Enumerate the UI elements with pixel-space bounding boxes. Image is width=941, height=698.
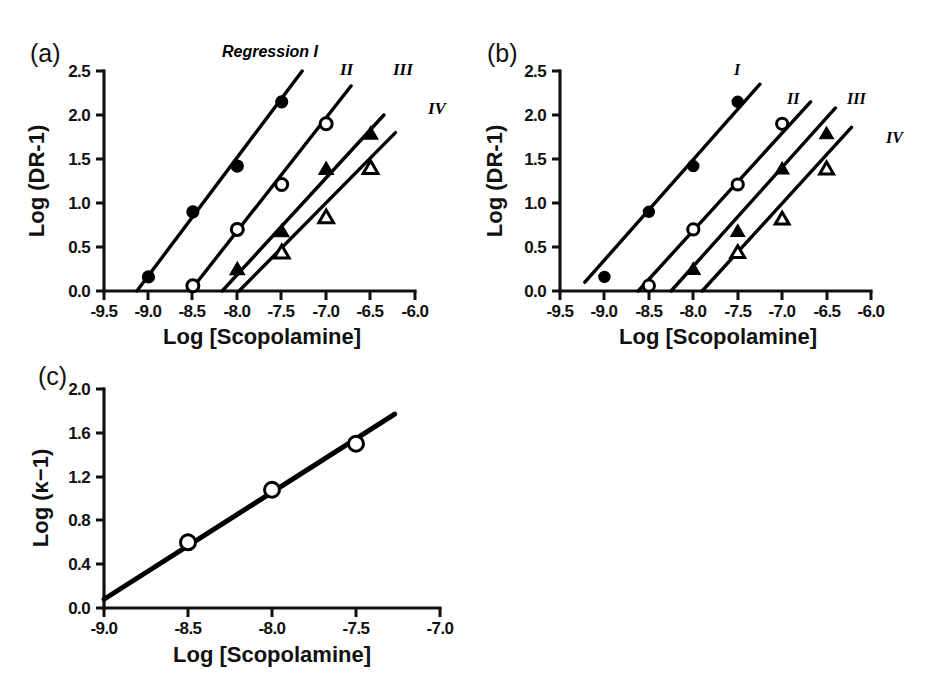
- data-point-filled-triangle: [686, 262, 700, 274]
- svg-text:0.4: 0.4: [68, 555, 91, 574]
- svg-text:-9.0: -9.0: [135, 302, 162, 321]
- data-point-filled-circle: [732, 96, 743, 107]
- panel-a-y-axis-title: Log (DR-1): [24, 125, 49, 237]
- svg-text:0.8: 0.8: [68, 511, 90, 530]
- svg-text:-8.5: -8.5: [179, 302, 206, 321]
- panel-b-y-axis-title: Log (DR-1): [482, 125, 507, 237]
- panel-a: (a) Regression I 0.0 0.5 1.0 1.5 2: [0, 0, 470, 350]
- panel-c: (c) 0.0 0.4 0.8 1.2 1.6 2.0: [0, 340, 470, 698]
- svg-text:2.5: 2.5: [524, 62, 546, 81]
- svg-text:1.5: 1.5: [524, 150, 546, 169]
- regression-line-III: [671, 108, 835, 291]
- regression-line-IV: [239, 133, 395, 291]
- panel-c-y-axis-title: Log (κ−1): [28, 449, 53, 547]
- svg-text:2.0: 2.0: [524, 106, 546, 125]
- data-point-filled-circle: [187, 206, 199, 218]
- svg-text:0.0: 0.0: [68, 282, 90, 301]
- svg-text:1.2: 1.2: [68, 468, 90, 487]
- svg-text:-6.0: -6.0: [402, 302, 429, 321]
- panel-b-series-label-IV: IV: [885, 129, 904, 146]
- panel-b-x-tick-labels: -9.5 -9.0 -8.5 -8.0 -7.5 -7.0 -6.5 -6.0: [547, 302, 885, 321]
- data-point-filled-triangle: [731, 225, 745, 237]
- data-point-open-circle: [777, 118, 788, 129]
- panel-a-series-label-II: II: [339, 60, 355, 79]
- svg-text:0.5: 0.5: [68, 238, 90, 257]
- panel-b: (b) 0.0 0.5 1.0 1.5 2.0 2.5: [462, 0, 941, 350]
- svg-text:1.0: 1.0: [68, 194, 90, 213]
- data-point-filled-circle: [643, 206, 654, 217]
- svg-text:1.5: 1.5: [68, 150, 90, 169]
- svg-text:-6.0: -6.0: [858, 302, 885, 321]
- panel-a-y-tick-labels: 0.0 0.5 1.0 1.5 2.0 2.5: [68, 62, 90, 301]
- svg-text:-7.0: -7.0: [769, 302, 796, 321]
- svg-text:-7.0: -7.0: [427, 619, 454, 638]
- svg-text:0.5: 0.5: [524, 238, 546, 257]
- data-point-filled-circle: [276, 96, 288, 108]
- panel-a-annotation: Regression I: [222, 43, 319, 60]
- svg-text:-6.5: -6.5: [357, 302, 384, 321]
- figure-root: (a) Regression I 0.0 0.5 1.0 1.5 2: [0, 0, 941, 698]
- svg-text:2.5: 2.5: [68, 62, 90, 81]
- data-point-open-circle: [643, 280, 654, 291]
- svg-text:-9.5: -9.5: [547, 302, 574, 321]
- svg-text:-8.0: -8.0: [680, 302, 707, 321]
- data-point-open-circle: [732, 179, 743, 190]
- panel-a-x-tick-labels: -9.5 -9.0 -8.5 -8.0 -7.5 -7.0 -6.5 -6.0: [91, 302, 429, 321]
- svg-text:-7.5: -7.5: [268, 302, 295, 321]
- data-point-filled-circle: [599, 271, 610, 282]
- data-point-open-circle: [688, 224, 699, 235]
- panel-b-plot: (b) 0.0 0.5 1.0 1.5 2.0 2.5: [462, 0, 941, 350]
- panel-a-series-label-IV: IV: [427, 99, 448, 118]
- svg-text:2.0: 2.0: [68, 106, 90, 125]
- svg-text:-8.5: -8.5: [636, 302, 663, 321]
- panel-c-letter: (c): [38, 362, 67, 390]
- panel-b-y-tick-labels: 0.0 0.5 1.0 1.5 2.0 2.5: [524, 62, 546, 301]
- data-point-open-circle: [265, 482, 280, 497]
- data-point-open-circle: [320, 118, 332, 130]
- panel-a-letter: (a): [30, 39, 61, 67]
- panel-b-regression-lines: [585, 84, 852, 291]
- svg-text:0.0: 0.0: [68, 599, 90, 618]
- svg-text:-8.0: -8.0: [224, 302, 251, 321]
- svg-text:-9.0: -9.0: [591, 302, 618, 321]
- svg-text:1.6: 1.6: [68, 424, 90, 443]
- data-point-open-circle: [231, 223, 243, 235]
- svg-text:0.0: 0.0: [524, 282, 546, 301]
- panel-b-series-label-I: I: [733, 61, 741, 78]
- data-point-open-triangle: [820, 162, 834, 174]
- regression-line-III: [222, 115, 384, 291]
- panel-c-y-tick-labels: 0.0 0.4 0.8 1.2 1.6 2.0: [68, 380, 91, 618]
- svg-text:2.0: 2.0: [68, 380, 90, 399]
- panel-b-data-points: [599, 96, 834, 291]
- svg-text:-9.5: -9.5: [91, 302, 118, 321]
- svg-text:-6.5: -6.5: [814, 302, 841, 321]
- panel-c-x-axis-title: Log [Scopolamine]: [173, 642, 371, 667]
- data-point-filled-triangle: [319, 162, 334, 175]
- data-point-open-triangle: [274, 245, 289, 258]
- svg-text:-8.5: -8.5: [175, 619, 202, 638]
- panel-b-series-label-II: II: [786, 90, 800, 107]
- svg-text:1.0: 1.0: [524, 194, 546, 213]
- panel-b-x-axis-title: Log [Scopolamine]: [619, 324, 817, 349]
- panel-c-x-tick-labels: -9.0 -8.5 -8.0 -7.5 -7.0: [91, 619, 454, 638]
- data-point-open-triangle: [775, 212, 789, 224]
- data-point-open-circle: [276, 179, 288, 191]
- panel-c-plot: (c) 0.0 0.4 0.8 1.2 1.6 2.0: [0, 340, 470, 698]
- panel-a-series-label-III: III: [392, 60, 414, 79]
- data-point-filled-triangle: [820, 127, 834, 139]
- panel-a-plot: (a) Regression I 0.0 0.5 1.0 1.5 2: [0, 0, 470, 350]
- svg-text:-9.0: -9.0: [91, 619, 118, 638]
- data-point-open-circle: [181, 535, 196, 550]
- svg-text:-7.0: -7.0: [313, 302, 340, 321]
- svg-text:-8.0: -8.0: [259, 619, 286, 638]
- regression-line-IV: [702, 127, 851, 291]
- data-point-open-circle: [349, 436, 364, 451]
- data-point-open-circle: [187, 280, 199, 292]
- panel-b-series-label-III: III: [846, 90, 866, 107]
- svg-text:-7.5: -7.5: [343, 619, 370, 638]
- data-point-filled-circle: [231, 160, 243, 172]
- panel-a-regression-lines: [137, 71, 396, 291]
- data-point-open-triangle: [319, 210, 334, 223]
- data-point-filled-circle: [688, 160, 699, 171]
- panel-b-letter: (b): [487, 39, 518, 67]
